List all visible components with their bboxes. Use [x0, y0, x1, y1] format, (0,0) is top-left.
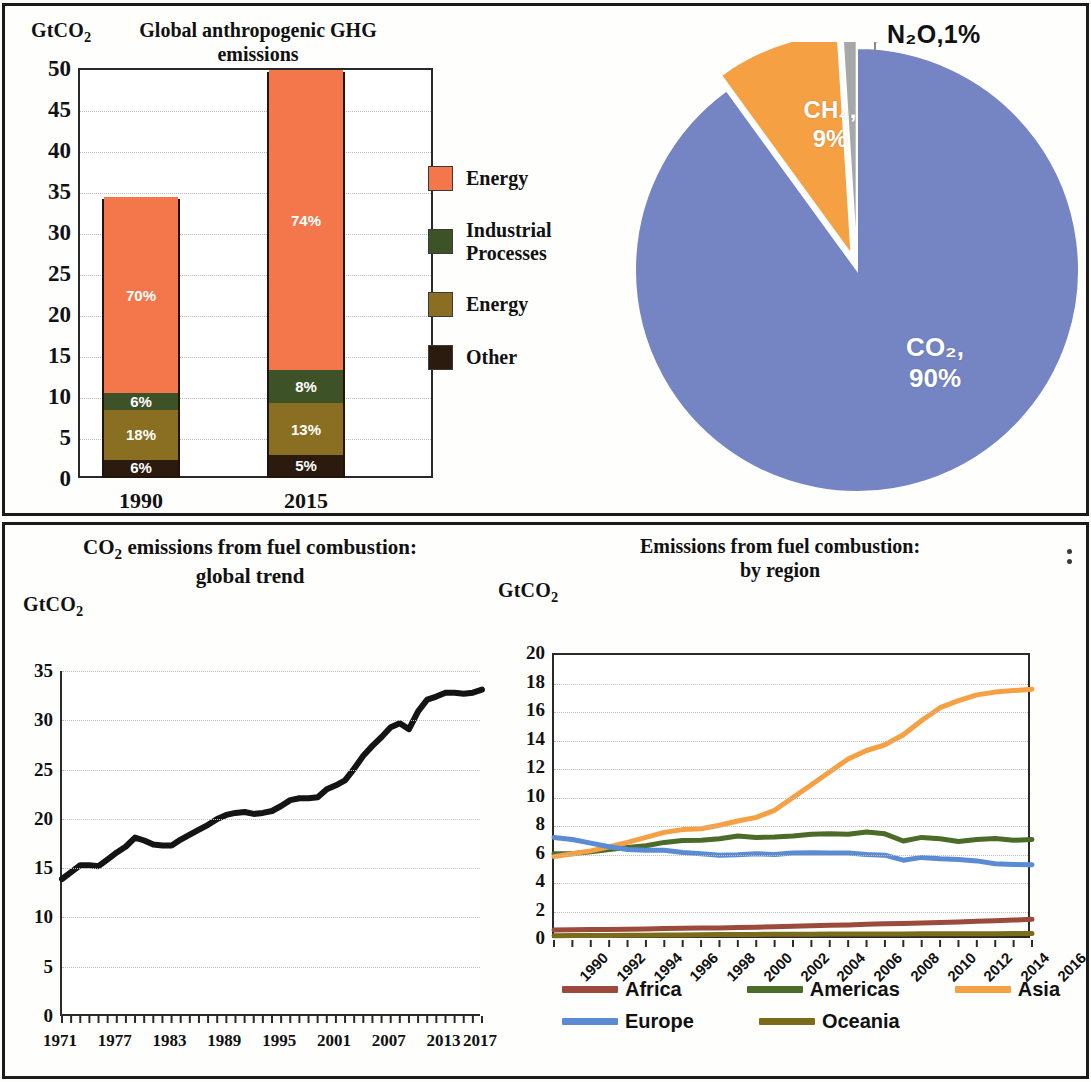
region-chart-title: Emissions from fuel combustion: by regio… — [550, 535, 1010, 582]
region-y-tick: 16 — [526, 699, 545, 721]
infographic-page: GtCO2 Global anthropogenic GHG emissions… — [0, 0, 1091, 1082]
pie-label-ch4: CH₄,9% — [770, 96, 890, 154]
bar-y-tick: 10 — [48, 385, 71, 408]
bar-y-tick: 15 — [48, 344, 71, 367]
bar-segment[interactable]: 13% — [269, 403, 343, 455]
legend-row: AfricaAmericasAsia — [562, 978, 1082, 1001]
bottom-panel: CO2 emissions from fuel combustion: glob… — [2, 522, 1089, 1079]
legend-label: Europe — [625, 1010, 694, 1033]
trend-gridline — [62, 967, 480, 968]
region-gridline — [554, 883, 1028, 884]
bar-segment[interactable]: 18% — [104, 410, 178, 460]
trend-gridline — [62, 671, 480, 672]
legend-item[interactable]: Asia — [955, 978, 1060, 1001]
legend-swatch — [562, 1018, 618, 1025]
legend-item[interactable]: Other — [428, 345, 608, 370]
bar-x-label: 2015 — [256, 488, 356, 514]
legend-label: Oceania — [822, 1010, 900, 1033]
region-title-line2: by region — [550, 559, 1010, 583]
trend-gridline — [62, 819, 480, 820]
region-series-asia[interactable] — [554, 689, 1032, 856]
bar-segment[interactable]: 8% — [269, 370, 343, 403]
trend-y-tick: 20 — [34, 808, 53, 830]
top-panel: GtCO2 Global anthropogenic GHG emissions… — [2, 3, 1089, 516]
trend-x-tick: 2007 — [372, 1031, 406, 1051]
bar-y-tick: 0 — [60, 467, 72, 490]
legend-row: EuropeOceania — [562, 1010, 1082, 1033]
region-y-tick: 6 — [536, 842, 546, 864]
legend-item[interactable]: Energy — [428, 166, 608, 191]
region-gridline — [554, 798, 1028, 799]
bar-chart-title: Global anthropogenic GHG emissions — [113, 19, 403, 66]
trend-chart-title: CO2 emissions from fuel combustion: glob… — [25, 535, 475, 589]
region-series-oceania[interactable] — [554, 934, 1032, 936]
trend-series-global[interactable] — [62, 690, 482, 879]
region-gridline — [554, 741, 1028, 742]
bar-segment[interactable]: 5% — [269, 455, 343, 476]
legend-item[interactable]: Africa — [562, 978, 682, 1001]
bar-y-tick: 20 — [48, 303, 71, 326]
region-plot-area — [552, 653, 1030, 938]
legend-swatch — [759, 1018, 815, 1025]
bar-segment[interactable]: 6% — [104, 460, 178, 476]
bar-y-tick: 25 — [48, 262, 71, 285]
region-series-africa[interactable] — [554, 919, 1032, 930]
legend-item[interactable]: IndustrialProcesses — [428, 219, 608, 264]
trend-plot-area — [60, 671, 480, 1016]
legend-swatch — [428, 345, 453, 370]
legend-item[interactable]: Energy — [428, 292, 608, 317]
region-y-tick: 8 — [536, 813, 546, 835]
legend-item[interactable]: Europe — [562, 1010, 694, 1033]
region-gridline — [554, 712, 1028, 713]
trend-y-tick: 15 — [34, 857, 53, 879]
legend-label: IndustrialProcesses — [466, 219, 552, 264]
legend-swatch — [747, 986, 803, 993]
trend-title-line2: global trend — [25, 564, 475, 589]
region-title-line1: Emissions from fuel combustion: — [550, 535, 1010, 559]
pie-label-co2: CO₂,90% — [860, 332, 1010, 394]
region-y-tick: 12 — [526, 756, 545, 778]
bar-y-tick: 35 — [48, 180, 71, 203]
bar-segment[interactable]: 6% — [104, 393, 178, 409]
legend-label: Energy — [466, 167, 528, 190]
bar-y-tick: 5 — [60, 426, 72, 449]
legend-swatch — [428, 166, 453, 191]
region-gridline — [554, 912, 1028, 913]
bar-x-label: 1990 — [91, 488, 191, 514]
bar-gridline — [80, 111, 431, 112]
region-y-tick: 14 — [526, 728, 545, 750]
trend-y-tick: 25 — [34, 759, 53, 781]
legend-label: Other — [466, 346, 517, 369]
legend-swatch — [428, 292, 453, 317]
region-y-tick: 18 — [526, 671, 545, 693]
ghg-gas-pie-chart: N₂O,1% CH₄,9% CO₂,90% — [625, 14, 1090, 514]
region-gridline — [554, 769, 1028, 770]
trend-gridline — [62, 770, 480, 771]
legend-item[interactable]: Oceania — [759, 1010, 900, 1033]
trend-y-tick: 10 — [34, 906, 53, 928]
legend-item[interactable]: Americas — [747, 978, 900, 1001]
ghg-bar-chart: GtCO2 Global anthropogenic GHG emissions… — [23, 16, 423, 506]
legend-swatch — [562, 986, 618, 993]
bar-segment[interactable]: 70% — [104, 197, 178, 393]
bar-gridline — [80, 152, 431, 153]
region-unit-label: GtCO2 — [498, 579, 558, 606]
legend-swatch — [955, 986, 1011, 993]
trend-title-line1: CO2 emissions from fuel combustion: — [25, 535, 475, 564]
trend-line-svg — [62, 671, 482, 1016]
region-gridline — [554, 855, 1028, 856]
trend-y-tick: 5 — [44, 956, 54, 978]
trend-y-tick: 30 — [34, 709, 53, 731]
bar-unit-label: GtCO2 — [31, 19, 91, 46]
bar-column[interactable]: 5%13%8%74% — [267, 72, 345, 478]
bar-y-tick: 45 — [48, 98, 71, 121]
bar-segment[interactable]: 74% — [269, 70, 343, 370]
bar-gridline — [80, 193, 431, 194]
trend-unit-label: GtCO2 — [23, 593, 83, 620]
bar-column[interactable]: 6%18%6%70% — [102, 199, 180, 478]
bar-y-tick: 40 — [48, 139, 71, 162]
region-gridline — [554, 826, 1028, 827]
legend-label: Africa — [625, 978, 682, 1001]
legend-label: Energy — [466, 293, 528, 316]
region-y-tick: 0 — [536, 927, 546, 949]
